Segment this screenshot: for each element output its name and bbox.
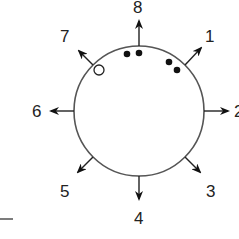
- label-1: 1: [205, 27, 214, 46]
- label-3: 3: [206, 182, 215, 201]
- arrow-7: [79, 51, 93, 65]
- label-4: 4: [134, 209, 143, 228]
- direction-diagram: 8 1 2 3 4 5 6 7: [0, 0, 239, 239]
- label-5: 5: [60, 182, 69, 201]
- arrow-3: [185, 157, 200, 172]
- arrow-1: [185, 48, 201, 65]
- open-dot: [94, 65, 104, 75]
- arrow-5: [78, 157, 93, 172]
- filled-dot: [166, 59, 173, 66]
- label-2: 2: [234, 102, 239, 121]
- filled-dot: [124, 51, 131, 58]
- filled-dot: [136, 50, 143, 57]
- label-7: 7: [60, 27, 69, 46]
- label-8: 8: [133, 0, 142, 17]
- filled-dot: [174, 67, 181, 74]
- main-circle: [74, 46, 204, 176]
- label-6: 6: [32, 102, 41, 121]
